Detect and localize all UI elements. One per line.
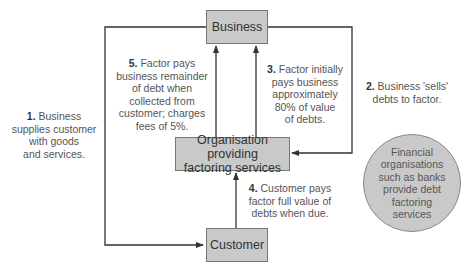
step-5-number: 5.	[129, 57, 138, 69]
factor-node: Organisation providing factoring service…	[175, 137, 290, 171]
step-2-label: 2. Business 'sells' debts to factor.	[357, 80, 457, 105]
step-3-number: 3.	[267, 63, 276, 75]
step-4-label: 4. Customer pays factor full value of de…	[241, 182, 339, 220]
step-3-label: 3. Factor initially pays business approx…	[261, 63, 349, 126]
factor-label-line2: factoring services	[184, 161, 281, 175]
business-label: Business	[212, 20, 263, 34]
step-5-label: 5. Factor pays business remainder of deb…	[112, 57, 212, 132]
step-4-number: 4.	[249, 182, 258, 194]
step-1-number: 1.	[27, 110, 36, 122]
customer-node: Customer	[206, 228, 268, 262]
customer-label: Customer	[210, 238, 264, 252]
step-2-number: 2.	[366, 80, 375, 92]
note-circle: Financial organisations such as banks pr…	[363, 134, 461, 232]
business-node: Business	[206, 10, 268, 44]
factor-label-line1: Organisation providing	[176, 133, 289, 161]
step-1-label: 1. Business supplies customer with goods…	[8, 110, 100, 160]
